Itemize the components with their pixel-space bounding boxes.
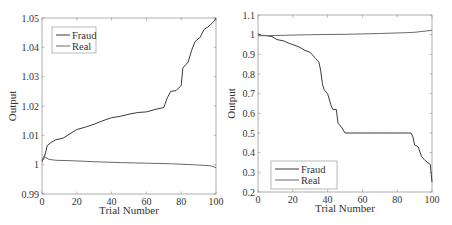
x-axis-label: Trial Number (315, 202, 375, 214)
y-tick-label: 1.03 (22, 71, 40, 82)
figure: 0204060801000.9911.011.021.031.041.05Tri… (0, 0, 452, 225)
chart-right: 0204060801000.20.30.40.50.60.70.80.911.1… (225, 10, 440, 215)
y-tick-label: 0.7 (243, 88, 256, 99)
series-real-line (258, 30, 432, 35)
y-axis: 0.9911.011.021.031.041.05 (22, 13, 217, 200)
chart-left: 0204060801000.9911.011.021.031.041.05Tri… (6, 13, 224, 217)
series-real-line (42, 157, 216, 168)
x-tick-label: 100 (425, 194, 440, 205)
x-axis-label: Trial Number (99, 204, 159, 216)
y-tick-label: 1.05 (22, 13, 40, 24)
x-tick-label: 80 (176, 196, 186, 207)
y-tick-label: 0.6 (243, 108, 256, 119)
y-tick-label: 1.04 (22, 42, 40, 53)
y-tick-label: 0.99 (22, 189, 40, 200)
legend: FraudReal (52, 27, 97, 53)
y-axis-label: Output (225, 88, 237, 119)
legend: FraudReal (271, 161, 337, 189)
y-tick-label: 1.02 (22, 101, 40, 112)
legend-label-fraud: Fraud (301, 164, 326, 175)
legend-label-real: Real (301, 175, 320, 186)
legend-label-fraud: Fraud (72, 30, 97, 41)
y-tick-label: 0.3 (243, 167, 256, 178)
y-tick-label: 0.8 (243, 69, 256, 80)
x-tick-label: 100 (209, 196, 224, 207)
y-tick-label: 1 (34, 159, 39, 170)
y-tick-label: 0.4 (243, 147, 256, 158)
x-tick-label: 0 (40, 196, 45, 207)
x-tick-label: 20 (288, 194, 298, 205)
legend-label-real: Real (72, 41, 91, 52)
y-tick-label: 0.5 (243, 128, 256, 139)
x-tick-label: 20 (72, 196, 82, 207)
x-tick-label: 0 (256, 194, 261, 205)
y-tick-label: 0.9 (243, 49, 256, 60)
y-tick-label: 1 (250, 29, 255, 40)
y-axis-label: Output (6, 91, 18, 122)
y-tick-label: 1.1 (243, 10, 256, 21)
y-tick-label: 1.01 (22, 130, 40, 141)
x-tick-label: 80 (392, 194, 402, 205)
series-fraud-line (258, 34, 432, 183)
y-tick-label: 0.2 (243, 187, 256, 198)
